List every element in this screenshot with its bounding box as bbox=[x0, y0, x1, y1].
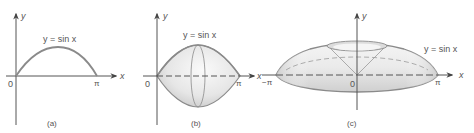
origin-label: 0 bbox=[145, 79, 150, 89]
curve-label: y = sin x bbox=[183, 30, 217, 40]
pi-label: π bbox=[435, 78, 441, 87]
y-axis-label: y bbox=[361, 11, 367, 21]
neg-pi-label: −π bbox=[262, 78, 273, 87]
x-axis-label: x bbox=[119, 71, 125, 81]
y-axis-label: y bbox=[162, 11, 168, 21]
panel-c: y x y = sin x 0 π −π (c) bbox=[262, 11, 464, 128]
curve-label: y = sin x bbox=[43, 34, 77, 44]
y-axis-label: y bbox=[20, 11, 26, 21]
figure-canvas: y x y = sin x 0 π (a) y x y = sin x 0 π … bbox=[0, 0, 474, 133]
panel-b: y x y = sin x 0 π (b) bbox=[143, 11, 262, 128]
pi-label: π bbox=[94, 79, 100, 88]
curve-label: y = sin x bbox=[424, 44, 458, 54]
sine-curve bbox=[16, 47, 97, 76]
panel-a: y x y = sin x 0 π (a) bbox=[6, 11, 125, 128]
pi-label: π bbox=[236, 79, 242, 88]
x-axis-label: x bbox=[458, 70, 464, 80]
caption-b: (b) bbox=[191, 119, 201, 128]
origin-label: 0 bbox=[8, 79, 13, 89]
origin-label: 0 bbox=[350, 79, 355, 89]
caption-c: (c) bbox=[347, 119, 357, 128]
caption-a: (a) bbox=[47, 119, 57, 128]
